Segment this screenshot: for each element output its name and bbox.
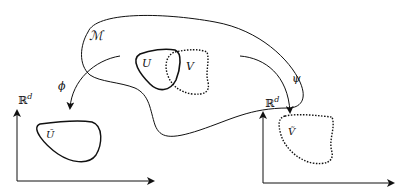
manifold-outline: [82, 15, 304, 136]
open-set-u-label: U: [142, 57, 152, 70]
phi-label: ϕ: [58, 80, 66, 93]
left-space-label: ℝd: [18, 92, 32, 107]
open-set-v-label: V: [186, 60, 195, 73]
manifold-label: ℳ: [89, 28, 105, 43]
manifold-chart-diagram: ℳ U V ϕ ψ ℝd Ũ ℝd Ṽ: [0, 0, 410, 196]
u-tilde-region: [37, 121, 101, 162]
v-tilde-region: [279, 115, 333, 164]
psi-label: ψ: [292, 72, 301, 85]
right-space-label: ℝd: [265, 95, 279, 110]
u-tilde-label: Ũ: [46, 129, 55, 140]
v-tilde-label: Ṽ: [288, 126, 297, 137]
